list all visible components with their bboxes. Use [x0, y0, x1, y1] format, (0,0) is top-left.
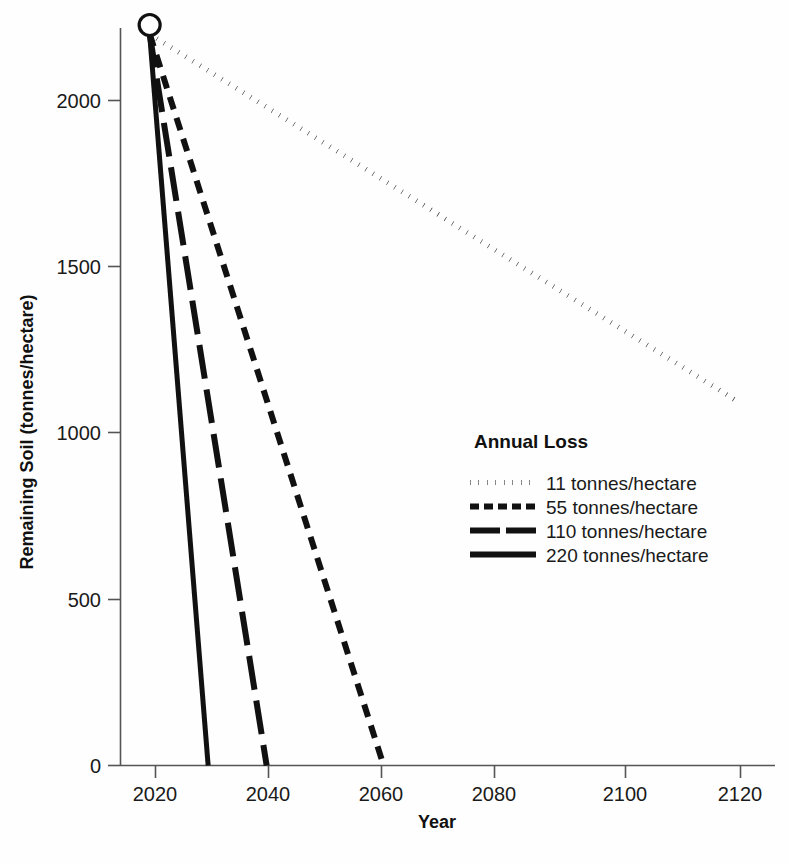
legend-label-220-tonnes: 220 tonnes/hectare [546, 545, 709, 566]
start-point-marker [139, 15, 160, 36]
y-tick-label-500: 500 [68, 589, 101, 611]
legend-item-55-tonnes[interactable]: 55 tonnes/hectare [470, 497, 698, 518]
legend-label-110-tonnes: 110 tonnes/hectare [546, 521, 707, 542]
legend-title: Annual Loss [474, 431, 588, 452]
y-tick-label-1000: 1000 [57, 422, 102, 444]
legend-label-55-tonnes: 55 tonnes/hectare [546, 497, 698, 518]
soil-depletion-line-chart: 2000 1500 1000 500 0 Remaining Soil (ton… [0, 0, 789, 863]
x-tick-label-2020: 2020 [133, 783, 178, 805]
x-axis-title: Year [418, 812, 456, 832]
series-line-110-tonnes [150, 34, 267, 766]
x-tick-label-2100: 2100 [603, 783, 648, 805]
series-group [139, 15, 735, 766]
y-tick-label-2000: 2000 [57, 90, 102, 112]
y-axis: 2000 1500 1000 500 0 Remaining Soil (ton… [17, 28, 121, 777]
y-tick-label-0: 0 [90, 755, 101, 777]
x-axis: 2020 2040 2060 2080 2100 2120 Year [121, 766, 776, 833]
legend-label-11-tonnes: 11 tonnes/hectare [546, 473, 697, 494]
x-tick-label-2060: 2060 [359, 783, 404, 805]
chart-page: 2000 1500 1000 500 0 Remaining Soil (ton… [0, 0, 789, 863]
x-tick-label-2080: 2080 [472, 783, 517, 805]
legend-item-110-tonnes[interactable]: 110 tonnes/hectare [470, 521, 707, 542]
series-line-220-tonnes [150, 34, 209, 766]
legend: Annual Loss 11 tonnes/hectare 55 tonnes/… [470, 431, 709, 566]
series-line-11-tonnes [150, 34, 735, 400]
legend-item-220-tonnes[interactable]: 220 tonnes/hectare [470, 545, 709, 566]
x-tick-label-2120: 2120 [718, 783, 763, 805]
y-axis-title: Remaining Soil (tonnes/hectare) [17, 294, 37, 569]
x-tick-label-2040: 2040 [246, 783, 291, 805]
series-line-55-tonnes [150, 34, 384, 766]
y-tick-label-1500: 1500 [57, 256, 102, 278]
legend-item-11-tonnes[interactable]: 11 tonnes/hectare [470, 473, 697, 494]
